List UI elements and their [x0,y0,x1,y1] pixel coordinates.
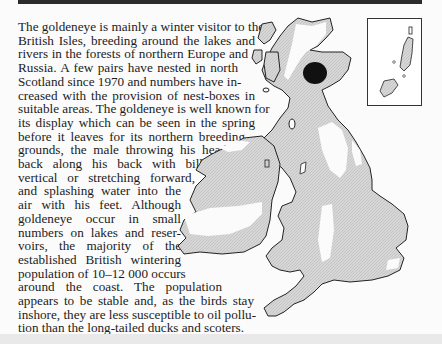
breeding-area-marker [303,62,327,84]
inset-map-northern-isles [367,18,422,106]
page-bottom-edge [0,334,442,344]
